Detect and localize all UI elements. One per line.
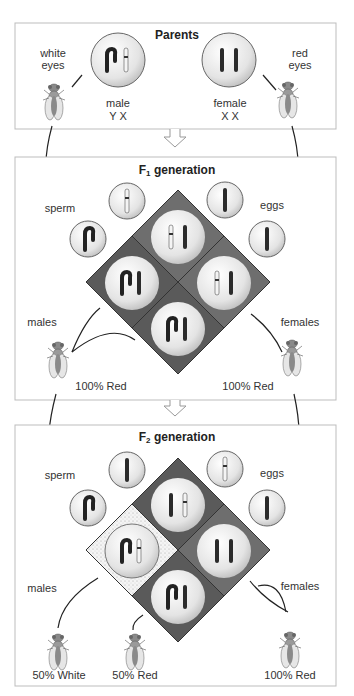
f1-eggs-label: eggs [254, 199, 290, 212]
f1-males-label: males [22, 316, 62, 329]
red-eyes-label-line2: eyes [280, 59, 320, 72]
male-genotype: Y X [95, 110, 141, 123]
f1-females-result: 100% Red [220, 380, 276, 393]
parents-title: Parents [0, 29, 354, 42]
f2-eggs-label: eggs [254, 467, 290, 480]
f2-sperm-label: sperm [40, 469, 80, 482]
f2-males-label: males [22, 582, 62, 595]
f1-males-result: 100% Red [73, 380, 129, 393]
female-genotype: X X [205, 110, 255, 123]
f1-females-label: females [278, 316, 322, 329]
f2-males-white-result: 50% White [30, 669, 88, 682]
f1-title: F1 generation [0, 164, 354, 180]
down-arrow-icon [164, 400, 186, 416]
f2-title: F2 generation [0, 431, 354, 447]
white-eyes-label-line2: eyes [30, 59, 76, 72]
f2-females-result: 100% Red [262, 669, 318, 682]
f2-females-label: females [278, 580, 322, 593]
female-label: female [205, 97, 255, 110]
male-label: male [95, 97, 141, 110]
f2-males-red-result: 50% Red [108, 669, 162, 682]
f1-sperm-label: sperm [40, 202, 80, 215]
down-arrow-icon [164, 129, 186, 147]
